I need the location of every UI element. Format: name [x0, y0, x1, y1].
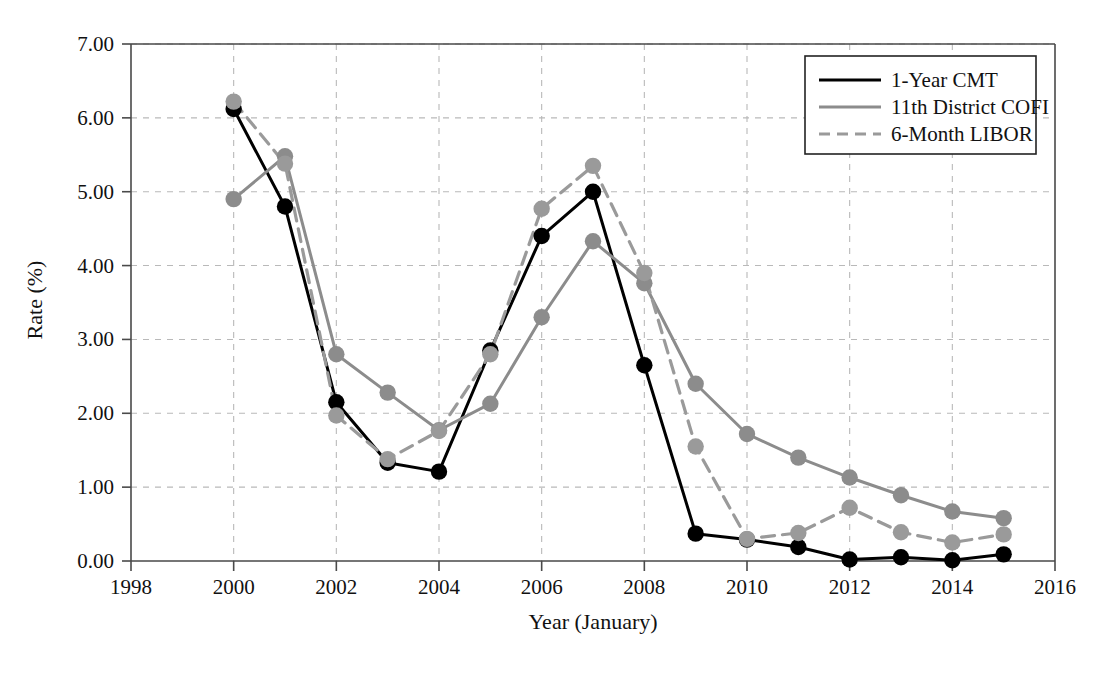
- data-point: [225, 93, 241, 109]
- data-point: [533, 201, 549, 217]
- data-point: [482, 346, 498, 362]
- data-point: [431, 423, 447, 439]
- data-point: [739, 426, 755, 442]
- data-point: [995, 546, 1011, 562]
- data-point: [790, 449, 806, 465]
- data-point: [995, 510, 1011, 526]
- data-point: [841, 551, 857, 567]
- data-point: [482, 395, 498, 411]
- data-point: [431, 463, 447, 479]
- series-line-6-month-libor: [234, 102, 1004, 543]
- data-point: [841, 500, 857, 516]
- data-point: [277, 155, 293, 171]
- legend-label-11th-district-cofi: 11th District COFI: [891, 95, 1049, 119]
- data-point: [636, 265, 652, 281]
- data-point: [893, 549, 909, 565]
- data-point: [790, 539, 806, 555]
- data-point: [533, 228, 549, 244]
- x-axis-tick-label: 2002: [315, 575, 357, 599]
- x-axis-tick-label: 2008: [623, 575, 665, 599]
- data-point: [328, 346, 344, 362]
- data-point: [379, 451, 395, 467]
- x-axis-tick-label: 2010: [726, 575, 768, 599]
- x-axis-title: Year (January): [528, 609, 657, 634]
- data-point: [944, 503, 960, 519]
- data-point: [328, 407, 344, 423]
- y-axis-tick-label: 1.00: [77, 475, 114, 499]
- series-markers: [225, 93, 1011, 568]
- legend-label-1-year-cmt: 1-Year CMT: [891, 68, 998, 92]
- x-axis-tick-label: 2004: [418, 575, 461, 599]
- x-axis-tick-label: 2016: [1034, 575, 1076, 599]
- data-point: [585, 158, 601, 174]
- legend-label-6-month-libor: 6-Month LIBOR: [891, 122, 1033, 146]
- y-axis-title: Rate (%): [22, 261, 47, 340]
- y-axis-tick-label: 5.00: [77, 180, 114, 204]
- data-point: [687, 438, 703, 454]
- data-point: [944, 552, 960, 568]
- y-axis-tick-label: 0.00: [77, 549, 114, 573]
- x-axis-tick-label: 2006: [521, 575, 563, 599]
- chart-canvas: 0.001.002.003.004.005.006.007.00 1998200…: [0, 0, 1112, 678]
- data-point: [585, 233, 601, 249]
- y-axis-tick-label: 7.00: [77, 32, 114, 56]
- rate-line-chart: 0.001.002.003.004.005.006.007.00 1998200…: [0, 0, 1112, 678]
- data-point: [687, 376, 703, 392]
- data-point: [995, 526, 1011, 542]
- data-point: [636, 357, 652, 373]
- data-point: [585, 184, 601, 200]
- series-line-1-year-cmt: [234, 109, 1004, 560]
- y-axis-tick-label: 6.00: [77, 106, 114, 130]
- series-lines: [234, 102, 1004, 561]
- data-point: [944, 534, 960, 550]
- series-line-11th-district-cofi: [234, 156, 1004, 518]
- data-point: [790, 525, 806, 541]
- data-point: [841, 469, 857, 485]
- data-point: [893, 487, 909, 503]
- data-point: [739, 531, 755, 547]
- x-axis-tick-label: 2000: [213, 575, 255, 599]
- x-axis-tick-label: 2014: [931, 575, 974, 599]
- data-point: [893, 524, 909, 540]
- y-axis-tick-labels: 0.001.002.003.004.005.006.007.00: [77, 32, 114, 573]
- x-axis-tick-labels: 1998200020022004200620082010201220142016: [110, 575, 1076, 599]
- x-axis-tick-label: 1998: [110, 575, 152, 599]
- data-point: [277, 198, 293, 214]
- y-axis-tick-label: 4.00: [77, 254, 114, 278]
- chart-legend: 1-Year CMT11th District COFI6-Month LIBO…: [805, 56, 1049, 154]
- data-point: [533, 309, 549, 325]
- data-point: [225, 191, 241, 207]
- y-axis-tick-label: 3.00: [77, 327, 114, 351]
- y-axis-tick-label: 2.00: [77, 401, 114, 425]
- x-axis-tick-label: 2012: [829, 575, 871, 599]
- data-point: [687, 525, 703, 541]
- data-point: [379, 384, 395, 400]
